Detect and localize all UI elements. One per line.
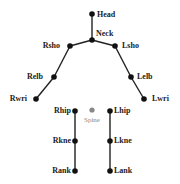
joint-label: Relb [27,72,44,81]
bone-neck-rsho [70,40,92,46]
joint-label: Rsho [43,41,60,50]
joint-dot [33,96,39,102]
bone-rsho-relb [54,46,70,77]
joint-dot [89,37,95,43]
joint-dot [72,108,78,114]
joint-label: Neck [96,29,114,38]
joint-label: Lsho [122,41,139,50]
joint-lank: Lank [107,166,133,175]
joint-dot [107,108,113,114]
joint-dot [107,138,113,144]
joint-dot [72,138,78,144]
joint-label: Lhip [114,106,131,115]
skeleton-diagram: HeadNeckRshoLshoRelbLelbRwriLwriRhipLhip… [0,0,180,184]
joint-label: Rwri [10,94,28,103]
joint-label: Lank [114,166,133,175]
bone-neck-lsho [92,40,115,46]
joint-dot [51,74,57,80]
joint-label: Rkne [53,136,72,145]
joint-dot [67,43,73,49]
joint-label: Lelb [137,72,153,81]
spine-point: Spine [84,107,100,124]
joint-head: Head [89,10,116,19]
joint-lwri: Lwri [141,94,169,103]
joint-dot [72,168,78,174]
joint-dot [107,168,113,174]
joint-dot [141,96,147,102]
joint-rwri: Rwri [10,94,39,103]
joints: HeadNeckRshoLshoRelbLelbRwriLwriRhipLhip… [10,10,170,175]
joint-dot [128,74,134,80]
joint-label: Head [97,10,116,19]
spine-label: Spine [84,116,100,124]
joint-label: Rank [52,166,71,175]
joint-label: Lkne [114,136,132,145]
joint-rhip: Rhip [54,106,78,115]
joint-lhip: Lhip [107,106,131,115]
joint-lkne: Lkne [107,136,132,145]
joint-neck: Neck [89,29,114,43]
spine-dot [89,107,94,112]
bone-lsho-lelb [115,46,131,77]
joint-label: Rhip [54,106,71,115]
joint-label: Lwri [152,94,170,103]
joint-dot [112,43,118,49]
joint-rkne: Rkne [53,136,78,145]
joint-dot [89,11,95,17]
bones [36,14,144,171]
joint-rank: Rank [52,166,77,175]
